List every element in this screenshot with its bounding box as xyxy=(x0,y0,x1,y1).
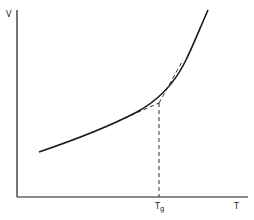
tg-label: Tg xyxy=(155,203,164,211)
x-axis-label: T xyxy=(234,203,239,211)
volume-curve xyxy=(39,10,208,152)
y-axis-label: V xyxy=(6,11,11,19)
glass-transition-diagram xyxy=(0,0,254,220)
tg-label-sub: g xyxy=(160,205,164,213)
high-temp-tangent xyxy=(159,60,183,103)
